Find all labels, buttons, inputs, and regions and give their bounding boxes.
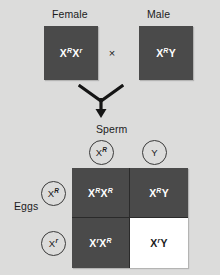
punnett-square-figure: Female Male XRXr × XRY Sperm Eggs XR Y X… (0, 0, 220, 275)
offspring-genotype: XrY (150, 237, 167, 249)
punnett-square-grid: XRXR XRY XrXR XrY (72, 168, 188, 268)
punnett-cell: XRY (130, 168, 188, 218)
male-parent-header: Male (147, 8, 170, 20)
female-parent-header: Female (52, 8, 88, 20)
female-parent-genotype-box: XRXr (44, 26, 98, 80)
punnett-cell-affected: XrY (130, 218, 188, 268)
offspring-genotype: XRXR (88, 187, 113, 199)
female-parent-genotype: XRXr (60, 47, 83, 59)
egg-gamete-label: XR (48, 188, 59, 199)
cross-arrow-icon (78, 84, 124, 118)
eggs-label: Eggs (14, 200, 38, 212)
offspring-genotype: XrXR (89, 237, 112, 249)
male-parent-genotype-box: XRY (139, 26, 193, 80)
sperm-gamete-y: Y (142, 140, 167, 165)
male-parent-genotype: XRY (156, 47, 176, 59)
egg-gamete-xr-recessive: Xr (41, 231, 66, 256)
sperm-label: Sperm (96, 123, 127, 135)
offspring-genotype: XRY (149, 187, 169, 199)
punnett-cell: XrXR (72, 218, 130, 268)
sperm-gamete-xr: XR (89, 140, 114, 165)
cross-symbol: × (105, 46, 119, 60)
sperm-gamete-label: Y (151, 147, 158, 158)
egg-gamete-label: Xr (49, 238, 58, 249)
punnett-cell: XRXR (72, 168, 130, 218)
sperm-gamete-label: XR (96, 147, 107, 158)
egg-gamete-xr-dominant: XR (41, 181, 66, 206)
